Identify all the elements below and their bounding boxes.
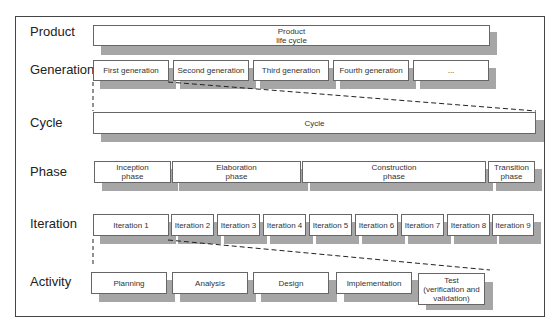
phase-box-inception: Inception phase — [94, 161, 171, 183]
level-label-activity: Activity — [30, 274, 71, 290]
cycle-box: Cycle — [93, 112, 536, 134]
level-label-generation: Generation — [30, 62, 94, 78]
generation-box: First generation — [93, 60, 169, 81]
activity-box-planning: Planning — [91, 272, 167, 294]
activity-box-design: Design — [253, 272, 329, 294]
level-label-iteration: Iteration — [30, 216, 77, 232]
product-box-shadow-side — [490, 32, 497, 46]
generation-box: Third generation — [253, 60, 329, 81]
level-label-cycle: Cycle — [30, 115, 63, 131]
iteration-box: Iteration 1 — [93, 214, 169, 236]
iteration-box: Iteration 7 — [401, 214, 444, 236]
activity-box-analysis: Analysis — [172, 272, 248, 294]
iteration-box: Iteration 9 — [492, 214, 534, 236]
iteration-box: Iteration 8 — [447, 214, 490, 236]
iteration-box: Iteration 6 — [355, 214, 398, 236]
generation-box: Second generation — [173, 60, 249, 81]
activity-box-implementation: Implementation — [336, 272, 412, 294]
level-label-product: Product — [30, 24, 75, 40]
iteration-box: Iteration 5 — [309, 214, 352, 236]
product-box-shadow — [101, 46, 497, 55]
iteration-box: Iteration 3 — [217, 214, 260, 236]
iteration-box: Iteration 2 — [171, 214, 214, 236]
phase-box-construction: Construction phase — [302, 161, 486, 183]
phase-box-transition: Transition phase — [488, 161, 535, 183]
level-label-phase: Phase — [30, 164, 67, 180]
generation-box: ... — [413, 60, 489, 81]
product-life-cycle-box: Product life cycle — [93, 25, 490, 46]
iteration-box: Iteration 4 — [263, 214, 306, 236]
activity-box-test: Test (verification and validation) — [418, 273, 485, 305]
phase-box-elaboration: Elaboration phase — [172, 161, 301, 183]
generation-box: Fourth generation — [333, 60, 409, 81]
